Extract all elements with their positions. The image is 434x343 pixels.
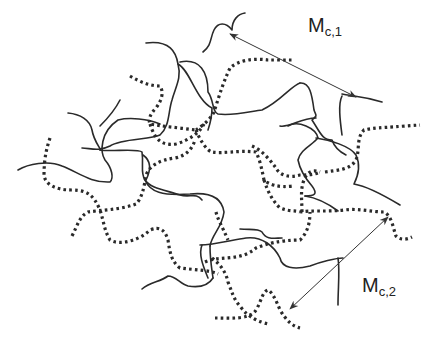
mc2-label-subscript: c,2 (379, 284, 396, 299)
dotted-chain (216, 212, 228, 240)
solid-chain (338, 258, 339, 305)
solid-chain (342, 94, 382, 102)
dotted-chain (325, 125, 420, 172)
mc2-label: Mc,2 (362, 275, 396, 298)
solid-chain (180, 61, 300, 114)
dotted-chain (215, 290, 300, 328)
dotted-chain (205, 212, 310, 262)
mc1-label: Mc,1 (308, 15, 342, 38)
dotted-chain (44, 138, 218, 274)
solid-chain (145, 180, 224, 246)
mc2-label-main: M (362, 274, 379, 296)
solid-chain (68, 113, 100, 150)
solid-chains (18, 13, 400, 305)
solid-chain (142, 276, 213, 289)
dotted-chain (264, 180, 300, 212)
dotted-chain (300, 209, 412, 239)
solid-chain (178, 64, 212, 130)
dotted-chain (302, 171, 321, 212)
solid-chain (203, 13, 245, 52)
solid-chain (280, 118, 316, 126)
dotted-chain (130, 76, 196, 130)
solid-chain (82, 43, 179, 150)
solid-chain (100, 100, 120, 126)
solid-chain (305, 196, 338, 211)
mc1-label-subscript: c,1 (325, 24, 342, 39)
solid-chain (240, 229, 282, 238)
solid-chain (100, 150, 202, 200)
dotted-chain (196, 130, 292, 187)
solid-chain (288, 124, 318, 196)
mc1-label-main: M (308, 14, 325, 36)
dotted-chain (212, 258, 268, 324)
dotted-chain (72, 140, 195, 236)
solid-chain (340, 96, 342, 135)
